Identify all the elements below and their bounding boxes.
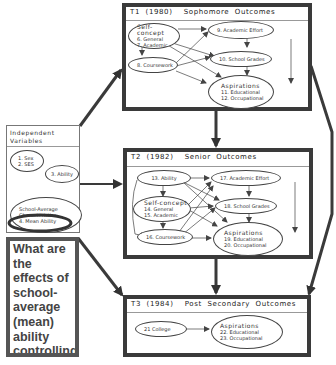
independent-variables-box: Independent Variables 1. Sex 2. SES 3. A… <box>6 125 80 233</box>
t3-node-college: 21 College <box>135 321 187 337</box>
t1-sophomore-outcomes-box: T1 (1980) Sophomore Outcomes Self-concep… <box>122 3 312 111</box>
t2-node-ability: 13. Ability <box>137 170 191 186</box>
node-ability: 3. Ability <box>45 165 79 183</box>
research-question-box: What are the effects of school-average (… <box>6 237 79 357</box>
t1-node-self-concept: Self-concept 6. General 7. Academic <box>128 23 180 49</box>
t1-node-school-grades: 10. School Grades <box>210 51 272 67</box>
t3-node-aspirations: Aspirations 22. Educational 23. Occupati… <box>211 315 283 349</box>
t1-node-aspirations: Aspirations 11. Educational 12. Occupati… <box>208 75 274 109</box>
t3-post-secondary-outcomes-box: T3 (1984) Post Secondary Outcomes 21 Col… <box>123 295 311 357</box>
t2-node-academic-effort: 17. Academic Effort <box>211 170 281 186</box>
t2-node-coursework: 16. Coursework <box>137 229 193 245</box>
node-school-average-characteristics: School-Average Characteristics 4. Mean A… <box>10 197 82 233</box>
node-sex-ses: 1. Sex 2. SES <box>10 150 44 172</box>
t1-node-academic-effort: 9. Academic Effort <box>208 21 274 39</box>
t1-node-coursework: 8. Coursework <box>128 57 178 73</box>
t2-node-self-concept: Self-concept 14. General 15. Academic <box>133 196 191 222</box>
t2-node-aspirations: Aspirations 19. Educational 20. Occupati… <box>213 222 283 256</box>
divider <box>7 146 79 147</box>
t2-senior-outcomes-box: T2 (1982) Senior Outcomes 13. Ability Se… <box>123 148 313 259</box>
independent-variables-title: Independent Variables <box>10 129 55 145</box>
t2-node-school-grades: 18. School Grades <box>215 198 277 214</box>
